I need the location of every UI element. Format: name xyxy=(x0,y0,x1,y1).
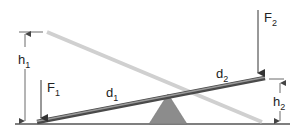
lever-diagram: h1 F1 d1 d2 F2 h2 xyxy=(0,0,306,134)
lever-diagram-svg: h1 F1 d1 d2 F2 h2 xyxy=(0,0,306,134)
f1-label: F1 xyxy=(47,80,60,98)
d2-label: d2 xyxy=(216,66,228,84)
d1-label: d1 xyxy=(106,85,118,103)
beam-current-highlight xyxy=(37,77,265,121)
beam-current-position xyxy=(37,78,265,122)
f2-label: F2 xyxy=(264,10,277,28)
beam-previous-position xyxy=(47,32,262,122)
